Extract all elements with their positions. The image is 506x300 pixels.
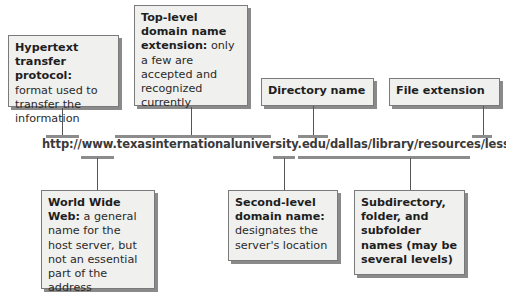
connector-protocol	[62, 108, 63, 136]
callout-second-level-text: designates the server's location	[235, 224, 327, 251]
connector-tld	[191, 107, 192, 136]
connector-file-ext	[483, 106, 484, 136]
callout-file-ext-title: File extension	[396, 84, 485, 97]
callout-file-ext: File extension	[389, 78, 500, 106]
example-url: http://www.texasinternationaluniversity.…	[42, 137, 506, 151]
callout-tld: Top-level domain name extension: only a …	[134, 5, 248, 106]
callout-protocol-text: format used to transfer the information	[15, 84, 98, 125]
callout-protocol-title: Hypertext transfer protocol:	[15, 41, 78, 82]
connector-second-level	[284, 158, 285, 190]
callout-directory-title: Directory name	[268, 84, 365, 97]
callout-second-level-title: Second-level domain name:	[235, 196, 325, 223]
callout-protocol: Hypertext transfer protocol: format used…	[8, 35, 119, 107]
callout-subdirectory: Subdirectory, folder, and subfolder name…	[354, 190, 465, 275]
callout-subdirectory-title: Subdirectory, folder, and subfolder name…	[361, 196, 457, 266]
connector-www	[97, 158, 98, 190]
callout-directory: Directory name	[261, 78, 374, 106]
callout-www: World Wide Web: a general name for the h…	[41, 190, 155, 289]
callout-second-level: Second-level domain name: designates the…	[228, 190, 338, 261]
underline-subdirectory	[298, 156, 470, 159]
connector-directory	[313, 106, 314, 136]
connector-subdirectory	[410, 158, 411, 190]
